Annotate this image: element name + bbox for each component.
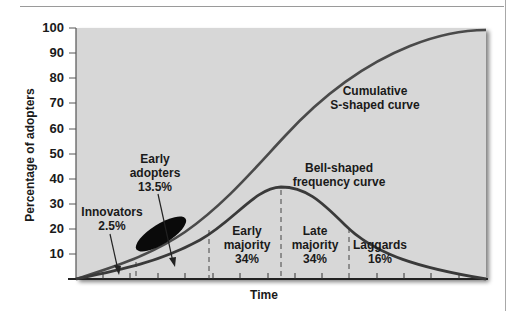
- x-axis-label: Time: [250, 288, 278, 302]
- innovators-percent: 2.5%: [81, 219, 142, 233]
- late-majority-line-2: majority: [292, 238, 339, 252]
- ytick-10: 10: [34, 247, 64, 261]
- laggards-label: Laggards 16%: [353, 238, 407, 266]
- innovators-name: Innovators: [81, 205, 142, 219]
- cumulative-line-2: S-shaped curve: [330, 98, 419, 112]
- laggards-name: Laggards: [353, 238, 407, 252]
- early-majority-line-1: Early: [224, 224, 271, 238]
- ytick-40: 40: [34, 172, 64, 186]
- ytick-30: 30: [34, 197, 64, 211]
- late-majority-line-1: Late: [292, 224, 339, 238]
- ytick-50: 50: [34, 147, 64, 161]
- cumulative-line-1: Cumulative: [330, 84, 419, 98]
- ytick-60: 60: [34, 122, 64, 136]
- ytick-90: 90: [34, 46, 64, 60]
- y-ticks: [69, 28, 76, 254]
- early-majority-percent: 34%: [224, 252, 271, 266]
- adoption-curve-chart: 100 90 80 70 60 50 40 30 20 10 Percentag…: [0, 0, 512, 311]
- ytick-100: 100: [34, 21, 64, 35]
- laggards-percent: 16%: [353, 252, 407, 266]
- bell-line-1: Bell-shaped: [293, 161, 386, 175]
- y-axis-label: Percentage of adopters: [23, 88, 37, 221]
- early-majority-line-2: majority: [224, 238, 271, 252]
- early-adopters-line-2: adopters: [130, 166, 181, 180]
- early-adopters-label: Early adopters 13.5%: [130, 152, 181, 194]
- ytick-20: 20: [34, 222, 64, 236]
- early-majority-label: Early majority 34%: [224, 224, 271, 266]
- early-adopters-percent: 13.5%: [130, 180, 181, 194]
- early-adopters-line-1: Early: [130, 152, 181, 166]
- ytick-80: 80: [34, 71, 64, 85]
- late-majority-percent: 34%: [292, 252, 339, 266]
- late-majority-label: Late majority 34%: [292, 224, 339, 266]
- bell-curve-label: Bell-shaped frequency curve: [293, 161, 386, 189]
- cumulative-curve-label: Cumulative S-shaped curve: [330, 84, 419, 112]
- innovators-label: Innovators 2.5%: [81, 205, 142, 233]
- bell-line-2: frequency curve: [293, 175, 386, 189]
- ytick-70: 70: [34, 96, 64, 110]
